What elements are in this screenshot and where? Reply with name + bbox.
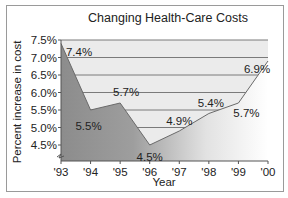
- y-tick-label: 4.5%: [31, 139, 57, 151]
- y-axis-title: Percent increase in cost: [11, 40, 23, 164]
- x-tick-label: '94: [83, 166, 99, 178]
- x-tick-label: '95: [113, 166, 128, 178]
- x-axis-title: Year: [152, 176, 175, 188]
- data-label: 4.9%: [166, 115, 192, 127]
- data-label: 4.5%: [137, 151, 163, 163]
- line-area-chart: 7.5%7.0%6.5%6.0%5.5%5.0%4.5% '93'94'95'9…: [0, 0, 288, 198]
- y-tick-label: 6.0%: [31, 87, 57, 99]
- data-label: 7.4%: [66, 46, 92, 58]
- data-label: 5.5%: [75, 120, 101, 132]
- x-tick-label: '93: [54, 166, 69, 178]
- data-label: 5.7%: [113, 86, 139, 98]
- y-axis: 7.5%7.0%6.5%6.0%5.5%5.0%4.5%: [31, 34, 64, 161]
- x-tick-label: '99: [231, 166, 246, 178]
- y-tick-label: 7.5%: [31, 34, 57, 46]
- chart-title: Changing Health-Care Costs: [88, 11, 248, 25]
- y-tick-label: 6.5%: [31, 69, 57, 81]
- data-label: 5.7%: [233, 107, 259, 119]
- x-tick-label: '98: [201, 166, 216, 178]
- y-tick-label: 5.5%: [31, 104, 57, 116]
- x-tick-label: '00: [261, 166, 276, 178]
- data-label: 5.4%: [198, 97, 224, 109]
- y-tick-label: 7.0%: [31, 52, 57, 64]
- data-label: 6.9%: [244, 63, 270, 75]
- y-tick-label: 5.0%: [31, 122, 57, 134]
